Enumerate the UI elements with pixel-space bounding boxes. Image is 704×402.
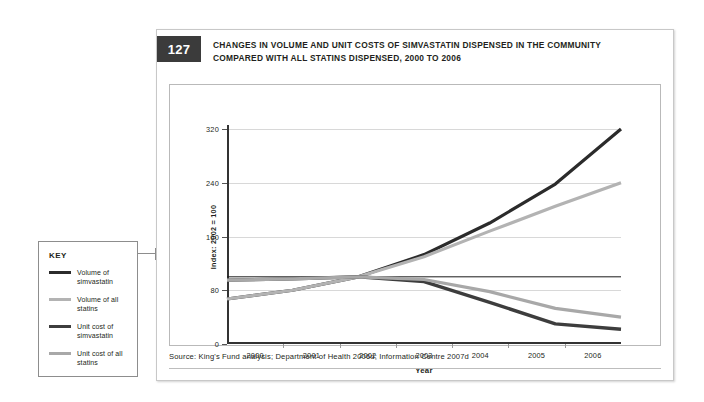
legend-swatch-unit-cost-simvastatin (49, 325, 71, 328)
legend-swatch-volume-all-statins (49, 298, 71, 301)
plot-area: Index: 2002 = 100 Year 080160240320 2000… (227, 129, 621, 344)
legend-label-line1: Volume of all (77, 296, 118, 303)
legend-swatch-unit-cost-all-statins (49, 352, 71, 355)
legend-label-volume-simvastatin: Volume of simvastatin (77, 268, 113, 287)
series-line-volume-of-simvastatin (227, 129, 621, 299)
key-title: KEY (49, 251, 129, 260)
legend-item-unit-cost-all-statins: Unit cost of all statins (49, 349, 129, 368)
source-divider (169, 368, 661, 369)
chart-frame: Index: 2002 = 100 Year 080160240320 2000… (169, 84, 661, 346)
x-tick-mark (396, 344, 397, 348)
series-plot (227, 129, 621, 344)
legend-label-line1: Volume of (77, 269, 109, 276)
legend-label-unit-cost-simvastatin: Unit cost of simvastatin (77, 322, 113, 341)
legend-label-line2: simvastatin (77, 278, 113, 285)
source-text: Source: King's Fund analysis; Department… (169, 352, 661, 361)
y-tick-label: 0 (215, 340, 219, 349)
y-tick-label: 80 (210, 286, 219, 295)
source-row: Source: King's Fund analysis; Department… (169, 352, 661, 369)
y-tick-mark (222, 344, 227, 345)
figure-title: CHANGES IN VOLUME AND UNIT COSTS OF SIMV… (213, 39, 601, 65)
legend-item-volume-all-statins: Volume of all statins (49, 295, 129, 314)
legend-item-volume-simvastatin: Volume of simvastatin (49, 268, 129, 287)
figure-title-bar: 127 CHANGES IN VOLUME AND UNIT COSTS OF … (157, 30, 673, 76)
legend-label-line1: Unit cost of all (77, 350, 123, 357)
legend-label-line2: simvastatin (77, 332, 113, 339)
x-tick-mark (340, 344, 341, 348)
y-tick-label: 160 (206, 232, 219, 241)
legend-label-line2: statins (77, 305, 98, 312)
y-tick-label: 240 (206, 178, 219, 187)
figure-panel: 127 CHANGES IN VOLUME AND UNIT COSTS OF … (156, 29, 674, 381)
x-tick-mark (565, 344, 566, 348)
series-line-unit-cost-of-simvastatin (227, 277, 621, 329)
legend-swatch-volume-simvastatin (49, 271, 71, 274)
x-tick-mark (508, 344, 509, 348)
legend-label-line2: statins (77, 359, 98, 366)
figure-title-line-1: CHANGES IN VOLUME AND UNIT COSTS OF SIMV… (213, 39, 601, 52)
y-tick-label: 320 (206, 125, 219, 134)
figure-title-line-2: COMPARED WITH ALL STATINS DISPENSED, 200… (213, 52, 601, 65)
key-legend-box: KEY Volume of simvastatin Volume of all … (38, 241, 138, 377)
legend-item-unit-cost-simvastatin: Unit cost of simvastatin (49, 322, 129, 341)
x-tick-mark (452, 344, 453, 348)
x-tick-mark (283, 344, 284, 348)
legend-label-volume-all-statins: Volume of all statins (77, 295, 118, 314)
key-connector-line (138, 253, 156, 254)
legend-label-unit-cost-all-statins: Unit cost of all statins (77, 349, 123, 368)
legend-label-line1: Unit cost of (77, 323, 113, 330)
figure-number-badge: 127 (157, 36, 201, 62)
